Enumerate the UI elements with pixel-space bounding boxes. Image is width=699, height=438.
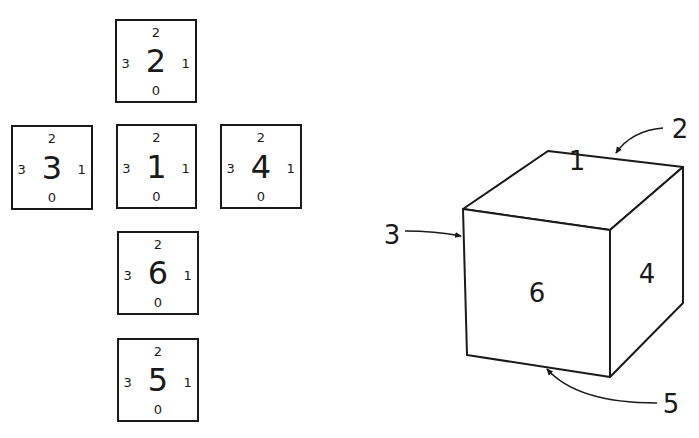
callout-arrow-2: [616, 128, 663, 153]
callout-arrow-3: [405, 231, 461, 236]
cube-right-face-label: 4: [639, 259, 656, 289]
cube-top-face-label: 1: [569, 146, 586, 176]
callout-label-3: 3: [384, 220, 401, 250]
callout-label-5: 5: [663, 389, 680, 419]
callout-label-2: 2: [672, 114, 689, 144]
cube-illustration: 1 6 4 2 3 5: [0, 0, 699, 438]
cube-front-face-label: 6: [529, 278, 546, 308]
